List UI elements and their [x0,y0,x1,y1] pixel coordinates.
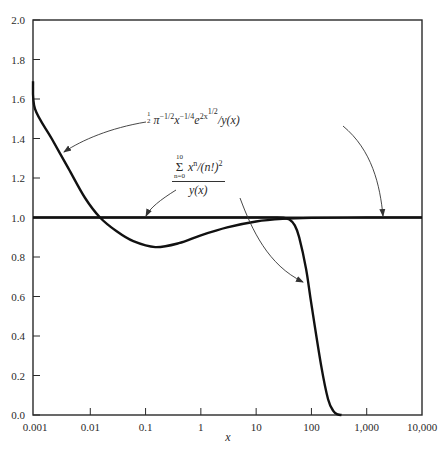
x-tick-label: 1,000 [354,421,379,433]
summation: 10Σn=0 [174,153,185,180]
x-tick-label: 1 [198,421,204,433]
y-tick-label: 1.0 [11,212,25,224]
y-tick-label: 1.8 [11,54,25,66]
x-tick-label: 0.01 [81,421,100,433]
divide-y: /y(x) [218,113,240,127]
e-exponent-base: 2x [200,112,208,121]
sum-lower: n=0 [174,172,185,180]
y-tick-label: 1.2 [11,172,25,184]
annotation-series-formula: 10Σn=0 xn/(n!)2 y(x) [172,153,225,198]
x-tick-label: 10 [251,421,263,433]
y-tick-label: 0.6 [11,291,25,303]
one-half-fraction: 12 [147,111,151,125]
x-axis-label: x [224,430,231,444]
y-tick-label: 0.0 [11,409,25,421]
line-chart: 0.00.20.40.60.81.01.21.41.61.82.0 0.0010… [0,0,448,451]
pi-exponent: −1/2 [160,112,175,121]
annotation-asymptotic-formula: 12 π−1/2x−1/4e2x1/2/y(x) [147,107,240,128]
factorial-term: /(n!) [197,160,218,174]
x-tick-label: 10,000 [407,421,438,433]
e-exponent-power: 1/2 [208,107,218,116]
e-exponent: 2x1/2 [200,112,218,121]
annotation-arrows [64,122,383,282]
x-tick-label: 0.001 [23,421,48,433]
x-exponent: −1/4 [180,112,195,121]
numerator: 10Σn=0 xn/(n!)2 [172,153,225,182]
arrow-to-asymptotic-curve [64,122,146,152]
x-tick-label: 100 [303,421,320,433]
y-tick-label: 0.4 [11,330,25,342]
y-tick-label: 0.8 [11,251,25,263]
y-tick-label: 0.2 [11,370,25,382]
y-tick-label: 2.0 [11,14,25,26]
series-lines [33,81,422,415]
y-tick-label: 1.4 [11,133,25,145]
y-tick-label: 1.6 [11,93,25,105]
sigma-symbol: Σ [174,161,185,172]
denominator: y(x) [172,182,225,198]
x-tick-label: 0.1 [139,421,153,433]
arrow-to-unity-right [343,126,383,216]
arrow-to-series-curve [240,198,303,282]
frac-den: 2 [147,118,151,125]
square-exponent: 2 [219,159,223,168]
series-truncated_series_ratio [33,217,342,415]
